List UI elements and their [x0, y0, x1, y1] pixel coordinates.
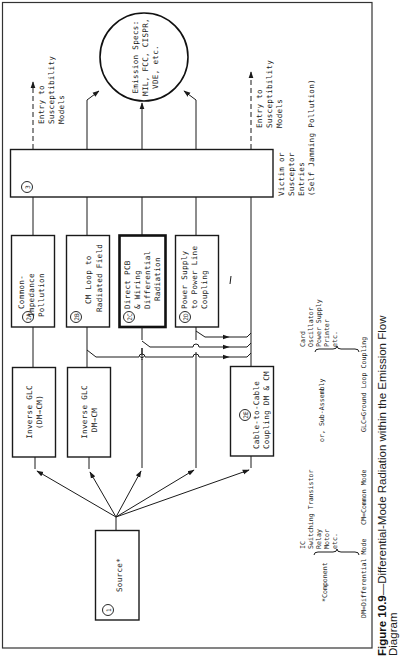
node-3-victim-entries: 3	[11, 150, 274, 198]
emission-specs-line2: MIL, FCC, CISPR,	[141, 18, 150, 96]
svg-text:2E: 2E	[242, 411, 249, 419]
svg-text:Radiation: Radiation	[153, 257, 162, 301]
svg-text:Entry to: Entry to	[37, 85, 46, 124]
svg-text:Coupling: Coupling	[200, 270, 209, 309]
cable-coupling-branches	[87, 331, 251, 357]
abbrev-glc: GLC=Ground Loop Coupling	[360, 337, 368, 432]
svg-text:Victim or: Victim or	[277, 152, 286, 196]
emission-specs-line1: Emission Specs:	[131, 20, 140, 93]
node-2e-cable-coupling: 2E Cable-to-Cable Coupling DM & CM	[231, 367, 274, 457]
svg-text:Radiated Field: Radiated Field	[95, 244, 104, 312]
svg-text:3: 3	[24, 185, 31, 189]
svg-text:CM Loop to: CM Loop to	[84, 255, 93, 304]
emission-specs-node: Emission Specs: MIL, FCC, CISPR, VDE, et…	[100, 13, 188, 101]
caption-line2: Diagram	[387, 613, 399, 656]
svg-text:Coupling DM & CM: Coupling DM & CM	[262, 371, 271, 449]
caption-text: —Differential-Mode Radiation within the …	[376, 315, 388, 595]
svg-text:Direct PCB: Direct PCB	[123, 260, 132, 309]
subassembly-item-etc: etc.	[331, 331, 339, 347]
svg-text:& Wiring: & Wiring	[133, 270, 142, 309]
component-item-relay: Relay	[315, 529, 323, 549]
svg-text:2B: 2B	[73, 313, 80, 321]
svg-text:Inverse GLC: Inverse GLC	[80, 385, 89, 439]
node-inverse-glc-1: Inverse GLC (DM→CM)	[13, 368, 56, 458]
emission-specs-line3: VDE, etc.	[151, 45, 160, 89]
svg-text:2D: 2D	[182, 313, 189, 321]
entry-right-label: Entry to Susceptibility Models	[255, 60, 284, 128]
arrow-2b-to-specs	[87, 91, 99, 149]
legend: *Component IC Switching Transistor Relay…	[299, 299, 368, 618]
svg-text:2C: 2C	[126, 313, 133, 321]
svg-text:Power Supply: Power Supply	[180, 250, 189, 309]
subassembly-item-card: Card	[299, 331, 307, 347]
legend-or-subassembly: or, Sub-Assembly	[318, 378, 326, 442]
svg-text:Susceptor: Susceptor	[287, 152, 296, 196]
svg-text:(Self Jamming Pollution): (Self Jamming Pollution)	[307, 79, 316, 196]
svg-text:Figure 10.9—Differential-Mode: Figure 10.9—Differential-Mode Radiation …	[376, 315, 388, 656]
svg-text:Cable-to-Cable: Cable-to-Cable	[252, 381, 261, 449]
svg-text:Models: Models	[275, 99, 284, 128]
node-1-source: 1 Source*	[96, 531, 140, 621]
node-3-label: Victim or Susceptor Entries (Self Jammin…	[277, 79, 316, 196]
node-2d-power-supply-coupling: 2D Power Supply to Power Line Coupling	[176, 236, 219, 328]
abbrev-cm: CM=Common Mode	[360, 469, 368, 525]
svg-text:Differential: Differential	[143, 251, 152, 309]
svg-text:Source*: Source*	[115, 558, 124, 592]
svg-text:Inverse GLC: Inverse GLC	[25, 385, 34, 439]
source-fan-arrows	[35, 456, 251, 530]
svg-text:Susceptibility: Susceptibility	[265, 60, 274, 128]
svg-text:Entry to: Entry to	[255, 89, 264, 128]
component-item-etc: etc.	[331, 533, 339, 549]
component-item-ic: IC	[299, 541, 307, 549]
node-2a-common-impedance: 2A Common- Impedance Pollution	[12, 236, 55, 328]
subassembly-item-power-supply: Power Supply	[315, 299, 323, 347]
svg-text:(DM→CM): (DM→CM)	[35, 395, 44, 429]
entry-left-label: Entry to Susceptibility Models	[37, 56, 66, 124]
node-inverse-glc-2: Inverse GLC DM→CM	[68, 368, 111, 458]
subassembly-item-printer: Printer	[323, 319, 331, 347]
arrow-2d-to-specs	[184, 91, 196, 149]
node-2c-direct-pcb-radiation: 2C Direct PCB & Wiring Differential Radi…	[120, 236, 166, 328]
svg-text:1: 1	[105, 608, 112, 612]
legend-component-label: *Component	[321, 562, 329, 602]
figure-caption: Figure 10.9—Differential-Mode Radiation …	[376, 315, 399, 656]
svg-text:Susceptibility: Susceptibility	[47, 56, 56, 124]
svg-text:DM→CM: DM→CM	[90, 408, 99, 432]
stray-mark	[230, 276, 231, 284]
subassembly-item-oscillator: Oscillator	[307, 307, 315, 347]
svg-text:Pollution: Pollution	[37, 273, 46, 317]
svg-text:Models: Models	[57, 95, 66, 124]
svg-text:Impedance: Impedance	[27, 273, 36, 317]
svg-text:Entries: Entries	[297, 162, 306, 196]
component-item-switching-transistor: Switching Transistor	[307, 470, 315, 549]
svg-text:Common-: Common-	[17, 275, 26, 309]
emission-flow-diagram: Emission Specs: MIL, FCC, CISPR, VDE, et…	[0, 0, 400, 660]
abbrev-dm: DM=Differential Mode	[360, 539, 368, 618]
svg-text:to Power Line: to Power Line	[190, 246, 199, 309]
node-2b-cm-loop: 2B CM Loop to Radiated Field	[67, 236, 110, 328]
component-item-motor: Motor	[323, 529, 331, 549]
